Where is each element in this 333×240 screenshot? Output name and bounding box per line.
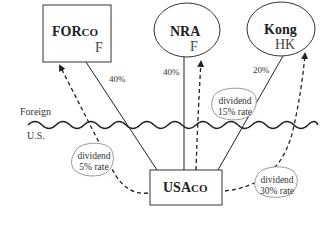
usaco-name-main: USA [163, 180, 191, 195]
dividend-label-15-line2: 15% rate [215, 107, 255, 118]
ownership-percent-nra: 40% [163, 68, 180, 77]
dividend-label-5: dividend 5% rate [76, 151, 112, 173]
kong-name: Kong [264, 23, 297, 37]
border-wave-line [28, 122, 318, 129]
dividend-label-5-line1: dividend [76, 151, 112, 162]
foreign-region-label: Foreign [20, 107, 51, 117]
dividend-label-5-line2: 5% rate [76, 162, 112, 173]
forco-name-main: FOR [52, 24, 82, 39]
usaco-name: USACO [163, 181, 208, 195]
dividend-label-30-line2: 30% rate [258, 186, 296, 197]
us-region-label: U.S. [27, 131, 45, 141]
dividend-label-15: dividend 15% rate [215, 96, 255, 118]
dividend-label-30-line1: dividend [258, 175, 296, 186]
usaco-name-suffix: CO [191, 182, 208, 194]
ownership-percent-kong: 20% [253, 66, 270, 75]
forco-country: F [95, 41, 103, 55]
nra-name: NRA [170, 25, 200, 39]
kong-country: HK [275, 38, 295, 52]
forco-name: FORCO [52, 25, 98, 39]
forco-name-suffix: CO [82, 26, 99, 38]
dividend-label-30: dividend 30% rate [258, 175, 296, 197]
ownership-percent-forco: 40% [109, 75, 126, 84]
nra-country: F [190, 40, 198, 54]
dividend-arrow-nra [196, 62, 201, 170]
dividend-label-15-line1: dividend [215, 96, 255, 107]
